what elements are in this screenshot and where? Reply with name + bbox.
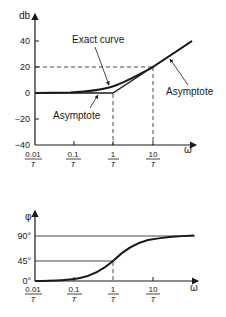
svg-text:T: T <box>31 295 37 304</box>
y-tick-40: 40 <box>20 36 30 46</box>
svg-text:0.01: 0.01 <box>25 150 41 159</box>
phase-tick-90: 90° <box>17 231 31 241</box>
phase-y-label: φ <box>25 211 32 222</box>
x-tick-1-over-T: 1 T <box>108 150 119 169</box>
x-tick-10-over-T: 10 T <box>146 150 160 169</box>
magnitude-y-label: db <box>19 10 31 21</box>
svg-text:0.1: 0.1 <box>68 285 80 294</box>
magnitude-plot: db ω 40 20 0 −20 −40 0.01 T 0.1 <box>15 10 214 169</box>
svg-text:T: T <box>111 295 117 304</box>
svg-text:0.01: 0.01 <box>25 285 41 294</box>
svg-text:T: T <box>72 295 78 304</box>
y-tick-20: 20 <box>20 62 30 72</box>
svg-text:T: T <box>31 160 37 169</box>
svg-text:10: 10 <box>149 285 158 294</box>
svg-text:10: 10 <box>149 150 158 159</box>
y-tick-0: 0 <box>25 88 30 98</box>
magnitude-x-label: ω <box>184 144 192 155</box>
asymptote-low-label: Asymptote <box>53 110 101 121</box>
y-tick-minus20: −20 <box>15 114 30 124</box>
phase-x-tick-10-over-T: 10 T <box>146 285 160 304</box>
phase-x-tick-0.01-over-T: 0.01 T <box>25 285 42 304</box>
phase-tick-45: 45° <box>17 256 31 266</box>
bode-diagram: db ω 40 20 0 −20 −40 0.01 T 0.1 <box>0 0 226 317</box>
phase-x-label: ω <box>190 282 198 293</box>
exact-curve-label: Exact curve <box>72 34 125 45</box>
asymptote-high-pointer <box>170 59 188 85</box>
phase-x-tick-1-over-T: 1 T <box>108 285 119 304</box>
x-tick-0.01-over-T: 0.01 T <box>25 150 42 169</box>
x-tick-0.1-over-T: 0.1 T <box>66 150 81 169</box>
svg-text:0.1: 0.1 <box>67 150 79 159</box>
svg-text:T: T <box>151 295 157 304</box>
svg-text:T: T <box>111 160 117 169</box>
svg-text:T: T <box>151 160 157 169</box>
asymptote-high-label: Asymptote <box>166 86 214 97</box>
phase-x-tick-0.1-over-T: 0.1 T <box>67 285 82 304</box>
phase-curve <box>35 236 194 282</box>
y-tick-minus40: −40 <box>15 140 30 150</box>
exact-curve-pointer <box>95 47 109 85</box>
asymptote-low-pointer <box>90 95 98 108</box>
svg-text:T: T <box>71 160 77 169</box>
svg-text:1: 1 <box>111 150 116 159</box>
phase-plot: φ ω 90° 45° 0° 0.01 T 0.1 T 1 T <box>17 211 198 304</box>
svg-text:1: 1 <box>111 285 116 294</box>
